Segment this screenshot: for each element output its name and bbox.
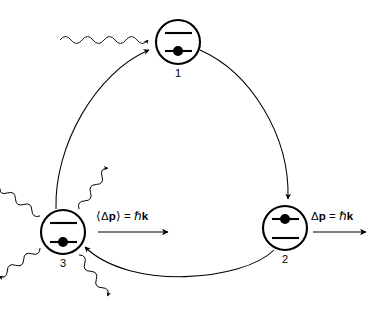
photon-sine-path	[60, 37, 148, 44]
arrow-2-to-3	[85, 247, 274, 277]
avg-momentum-part-eq: ⟩ = ℏ	[116, 210, 142, 222]
cycle-arrows	[56, 50, 288, 277]
avg-momentum-part-p: p	[109, 210, 116, 222]
state-3-circle	[41, 210, 85, 254]
emission-down-left-wave	[0, 245, 42, 279]
emission-up-right-wave	[76, 166, 110, 211]
avg-momentum-part-k: k	[142, 210, 149, 222]
emission-down-right-wave	[76, 253, 110, 298]
momentum-cycle-diagram: 1 2 3 ⟨Δp⟩ = ℏk Δp = ℏk	[0, 0, 371, 309]
momentum-annotation: Δp = ℏk	[311, 210, 366, 232]
momentum-part-p: p	[319, 210, 326, 222]
diagram-canvas: 1 2 3 ⟨Δp⟩ = ℏk Δp = ℏk	[0, 0, 371, 309]
arrow-3-to-1	[56, 50, 149, 209]
state-2-number: 2	[282, 253, 288, 265]
incoming-photon-wave	[60, 37, 148, 44]
state-1-electron	[173, 46, 183, 56]
state-2-electron	[280, 214, 290, 224]
avg-momentum-label: ⟨Δp⟩ = ℏk	[96, 210, 149, 222]
state-2-atom: 2	[263, 206, 307, 265]
state-3-atom: 3	[41, 210, 85, 269]
avg-momentum-part-open: ⟨Δ	[96, 210, 109, 222]
state-1-number: 1	[175, 67, 181, 79]
emission-up-left-wave	[0, 185, 42, 219]
state-2-circle	[263, 206, 307, 250]
momentum-part-k: k	[347, 210, 354, 222]
state-3-electron	[58, 237, 68, 247]
momentum-part-eq: = ℏ	[326, 210, 347, 222]
state-3-number: 3	[60, 257, 66, 269]
state-1-circle	[156, 20, 200, 64]
arrow-1-to-2	[200, 50, 288, 199]
avg-momentum-annotation: ⟨Δp⟩ = ℏk	[96, 210, 168, 232]
momentum-label: Δp = ℏk	[311, 210, 354, 222]
state-1-atom: 1	[156, 20, 200, 79]
